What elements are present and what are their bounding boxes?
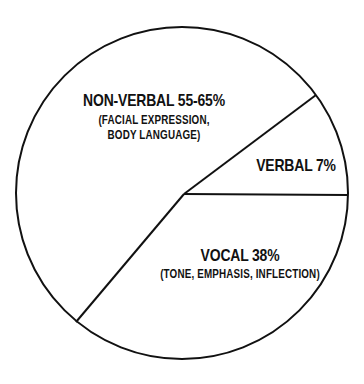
pie-outline xyxy=(16,27,348,359)
nonverbal-title: NON-VERBAL 55-65% xyxy=(80,91,228,111)
pie-chart xyxy=(0,0,364,384)
vocal-title: VOCAL 38% xyxy=(150,246,330,266)
slice-label-vocal: VOCAL 38% (TONE, EMPHASIS, INFLECTION) xyxy=(150,246,330,282)
verbal-title: VERBAL 7% xyxy=(247,156,345,176)
nonverbal-detail-line2: BODY LANGUAGE) xyxy=(80,128,228,143)
vocal-detail-line1: (TONE, EMPHASIS, INFLECTION) xyxy=(150,267,330,282)
nonverbal-detail-line1: (FACIAL EXPRESSION, xyxy=(80,113,228,128)
slice-label-verbal: VERBAL 7% xyxy=(247,156,345,176)
divider-verbal-vocal xyxy=(184,194,348,195)
slice-label-nonverbal: NON-VERBAL 55-65% (FACIAL EXPRESSION, BO… xyxy=(80,91,228,143)
